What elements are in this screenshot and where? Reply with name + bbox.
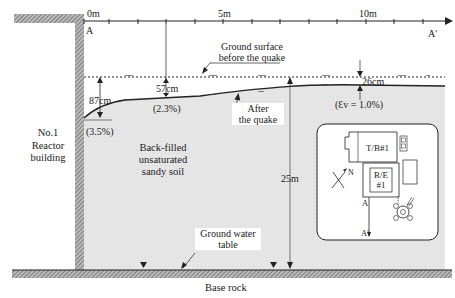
soil-label-line3: sandy soil [133, 166, 193, 178]
settlement-57cm: 57cm [156, 83, 178, 94]
liquefaction-cross-section-diagram: 0m 5m 10m A A' No.1 Reactor building Gro… [0, 0, 455, 298]
ground-surface-before-label: Ground surface before the quake [212, 41, 292, 63]
reactor-building-label: No.1 Reactor building [28, 127, 68, 165]
soil-label-line2: unsaturated [133, 154, 193, 166]
inset-section-start: A [362, 198, 368, 209]
ground-before-line2: before the quake [212, 52, 292, 63]
base-rock-label: Base rock [205, 282, 247, 293]
depth-25m-label: 25m [281, 173, 299, 184]
ground-after-label: After the quake [232, 103, 284, 125]
section-end-label: A' [428, 28, 437, 39]
building-label-line3: building [28, 152, 68, 165]
north-label: N [348, 167, 354, 178]
strain-1-0: (Ɛv = 1.0%) [335, 99, 383, 110]
ground-water-table-label: Ground water table [195, 228, 261, 250]
axis-tick-10m: 10m [359, 8, 377, 19]
section-start-label: A [86, 25, 93, 36]
water-table-line2: table [197, 239, 259, 250]
soil-label-line1: Back-filled [133, 142, 193, 154]
building-label-line1: No.1 [28, 127, 68, 140]
ground-after-line2: the quake [234, 114, 282, 125]
reactor-building-inset-label: R/E #1 [371, 170, 391, 190]
reactor-inset-line2: #1 [371, 180, 391, 190]
inset-section-end: A' [361, 228, 369, 239]
reactor-inset-line1: R/E [371, 170, 391, 180]
building-label-line2: Reactor [28, 140, 68, 153]
building-roof-hatch [14, 14, 84, 23]
backfill-soil-label: Back-filled unsaturated sandy soil [133, 142, 193, 178]
strain-3-5: (3.5%) [86, 126, 114, 137]
strain-2-3: (2.3%) [153, 103, 181, 114]
axis-tick-5m: 5m [218, 8, 231, 19]
building-wall-hatch [75, 14, 84, 272]
axis-tick-0m: 0m [87, 8, 100, 19]
settlement-87cm: 87cm [89, 95, 111, 106]
water-table-line1: Ground water [197, 228, 259, 239]
settlement-26cm: 26cm [362, 76, 384, 87]
turbine-building-label: T/B#1 [366, 143, 389, 154]
ground-after-line1: After [234, 103, 282, 114]
base-rock-hatch [12, 270, 452, 278]
ground-before-line1: Ground surface [212, 41, 292, 52]
